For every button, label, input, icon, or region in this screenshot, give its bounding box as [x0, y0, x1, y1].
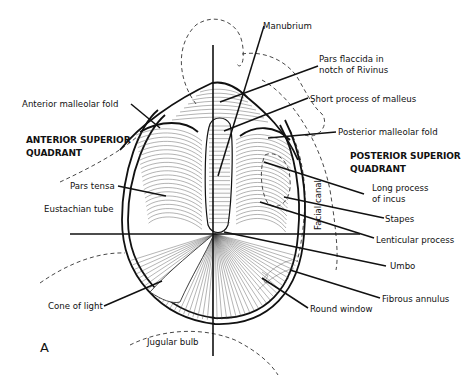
- label-anterior-fold: Anterior malleolar fold: [22, 99, 118, 109]
- hatch-stroke: [236, 194, 288, 208]
- hatch-stroke: [215, 234, 274, 297]
- label-posterior-quadrant-2: QUADRANT: [350, 164, 407, 174]
- hatch-stroke: [236, 186, 288, 200]
- hatch-stroke: [215, 234, 266, 303]
- dashed-outlines: [40, 19, 337, 375]
- labels: Manubrium Pars flaccida in notch of Rivi…: [22, 21, 461, 355]
- facial-canal-outline: [262, 80, 337, 270]
- hatch-stroke: [215, 234, 291, 274]
- hatch-stroke: [215, 234, 289, 278]
- label-short-process: Short process of malleus: [310, 94, 417, 104]
- hatch-stroke: [215, 234, 258, 308]
- panel-letter: A: [40, 340, 49, 355]
- hatch-stroke: [236, 182, 288, 196]
- label-long-process-1: Long process: [372, 183, 429, 193]
- leader-pars-tensa: [118, 186, 166, 196]
- hatch-stroke: [236, 170, 289, 184]
- label-lenticular: Lenticular process: [376, 235, 455, 245]
- label-anterior-quadrant-1: ANTERIOR SUPERIOR: [26, 135, 131, 145]
- label-pars-tensa: Pars tensa: [70, 181, 115, 191]
- hatch-stroke: [136, 129, 202, 141]
- label-long-process-2: of incus: [372, 194, 406, 204]
- label-stapes: Stapes: [385, 214, 415, 224]
- label-posterior-quadrant-1: POSTERIOR SUPERIOR: [350, 151, 461, 161]
- label-anterior-quadrant-2: QUADRANT: [26, 148, 83, 158]
- label-pars-flaccida-2: notch of Rivinus: [319, 65, 389, 75]
- hatch-stroke: [149, 217, 202, 229]
- label-posterior-fold: Posterior malleolar fold: [338, 127, 438, 137]
- hatch-stroke: [215, 234, 245, 315]
- hatch-stroke: [236, 178, 289, 192]
- hatch-stroke: [236, 210, 286, 224]
- leader-fibrous-annulus: [290, 270, 380, 298]
- incus-stapes-outline: [261, 154, 290, 207]
- label-facial-canal: Facial canal: [313, 180, 323, 230]
- label-pars-flaccida-1: Pars flaccida in: [319, 54, 384, 64]
- leader-posterior-fold: [268, 132, 336, 138]
- hatch-stroke: [236, 198, 287, 212]
- leader-pars-flaccida: [220, 66, 318, 102]
- label-jugular-bulb: Jugular bulb: [146, 337, 199, 347]
- label-umbo: Umbo: [390, 261, 415, 271]
- hatch-stroke: [236, 202, 287, 216]
- label-cone-of-light: Cone of light: [48, 301, 103, 311]
- tympanic-membrane-diagram: Manubrium Pars flaccida in notch of Rivi…: [0, 0, 472, 385]
- label-eustachian-tube: Eustachian tube: [44, 204, 114, 214]
- label-manubrium: Manubrium: [263, 21, 312, 31]
- hatch-stroke: [215, 234, 254, 311]
- label-fibrous-annulus: Fibrous annulus: [382, 294, 450, 304]
- anterior-lower-outline: [40, 253, 125, 283]
- label-round-window: Round window: [310, 304, 373, 314]
